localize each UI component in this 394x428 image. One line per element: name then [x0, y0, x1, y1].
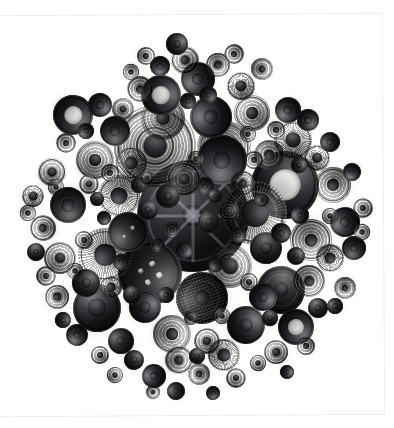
- button-133: [204, 384, 222, 402]
- button-face: [122, 348, 145, 371]
- button-74: [56, 133, 76, 153]
- button-91: [287, 247, 305, 265]
- button-face: [307, 297, 329, 319]
- button-120: [106, 366, 124, 384]
- button-face: [292, 264, 325, 297]
- button-57: [45, 285, 70, 310]
- button-face: [296, 336, 316, 356]
- button-collection: [0, 0, 394, 428]
- button-face: [226, 71, 255, 100]
- button-108: [214, 308, 230, 324]
- button-115: [77, 122, 96, 141]
- button-face: [45, 285, 70, 310]
- button-face: [163, 378, 188, 403]
- button-face: [77, 122, 96, 141]
- button-face: [89, 344, 110, 365]
- button-81: [122, 348, 145, 371]
- button-40: [226, 71, 255, 100]
- button-face: [214, 308, 230, 324]
- button-face: [56, 133, 76, 153]
- button-face: [106, 366, 124, 384]
- button-79: [307, 297, 329, 319]
- button-96: [296, 336, 316, 356]
- photo-canvas: Black Buttons: [0, 0, 394, 428]
- button-face: [287, 247, 305, 265]
- button-98: [89, 344, 110, 365]
- button-35: [292, 264, 325, 297]
- button-face: [204, 384, 222, 402]
- button-97: [163, 378, 188, 403]
